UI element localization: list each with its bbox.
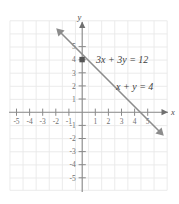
equation-label-bottom: x + y = 4 [115, 81, 153, 92]
x-tick-label-3: 3 [120, 117, 124, 126]
y-tick-label-neg2: -2 [70, 134, 76, 143]
x-tick-label-neg5: -5 [13, 117, 19, 126]
y-axis-name: y [77, 12, 82, 22]
x-tick-label-neg4: -4 [26, 117, 32, 126]
x-tick-label-2: 2 [107, 117, 111, 126]
equation-label-top: 3x + 3y = 12 [95, 54, 148, 65]
y-tick-label-neg3: -3 [70, 147, 76, 156]
y-tick-label-neg4: -4 [70, 160, 76, 169]
y-tick-label-2: 2 [72, 82, 76, 91]
y-axis-arrowhead [79, 22, 85, 29]
y-tick-label-4: 4 [72, 55, 76, 64]
x-tick-label-neg2: -2 [53, 117, 59, 126]
x-tick-label-1: 1 [93, 117, 97, 126]
y-intercept-point-marker [79, 57, 84, 62]
y-tick-label-3: 3 [72, 69, 76, 78]
x-axis-name: x [170, 107, 175, 117]
x-tick-label-neg3: -3 [40, 117, 46, 126]
coordinate-plane-figure: -5 -4 -3 -2 -1 1 2 3 4 5 5 4 3 2 1 -1 -2… [0, 0, 179, 204]
y-tick-label-1: 1 [72, 95, 76, 104]
y-tick-label-neg1: -1 [70, 121, 76, 130]
graph-canvas: -5 -4 -3 -2 -1 1 2 3 4 5 5 4 3 2 1 -1 -2… [0, 0, 179, 204]
y-tick-label-neg5: -5 [70, 174, 76, 183]
x-tick-label-4: 4 [133, 117, 137, 126]
grid-lines [10, 21, 167, 191]
